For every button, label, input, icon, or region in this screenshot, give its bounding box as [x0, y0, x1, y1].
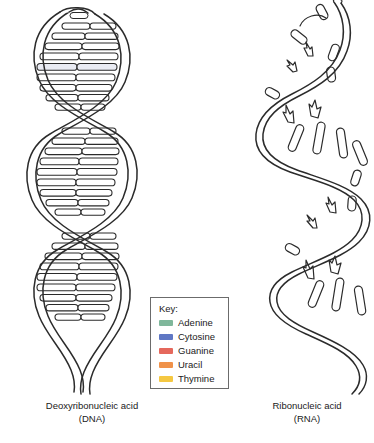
uracil-color-swatch — [159, 362, 173, 368]
rna-bases — [264, 3, 369, 315]
adenine-label: Adenine — [178, 317, 213, 329]
adenine-color-swatch — [159, 320, 173, 326]
legend-item-uracil: Uracil — [159, 358, 228, 372]
dna-caption-line2: (DNA) — [0, 413, 184, 426]
cytosine-label: Cytosine — [178, 331, 215, 343]
dna-caption: Deoxyribonucleic acid (DNA) — [0, 400, 184, 425]
rna-strand — [256, 0, 370, 394]
rna-backbone — [256, 2, 370, 394]
legend-item-cytosine: Cytosine — [159, 330, 228, 344]
figure-canvas: Key: Adenine Cytosine Guanine Uracil Thy… — [0, 0, 374, 443]
legend-box: Key: Adenine Cytosine Guanine Uracil Thy… — [150, 297, 229, 389]
thymine-label: Thymine — [178, 373, 214, 385]
cytosine-color-swatch — [159, 334, 173, 340]
dna-base-pair-rungs — [37, 23, 119, 320]
thymine-color-swatch — [159, 376, 173, 382]
uracil-label: Uracil — [178, 359, 202, 371]
rna-caption: Ribonucleic acid (RNA) — [240, 400, 374, 425]
dna-rung-group-3 — [37, 233, 119, 320]
legend-item-guanine: Guanine — [159, 344, 228, 358]
rna-caption-line2: (RNA) — [240, 413, 374, 426]
legend-item-thymine: Thymine — [159, 372, 228, 386]
guanine-label: Guanine — [178, 345, 214, 357]
legend-title: Key: — [159, 303, 228, 314]
dna-top-cap — [60, 8, 95, 19]
guanine-color-swatch — [159, 348, 173, 354]
legend-item-adenine: Adenine — [159, 316, 228, 330]
dna-caption-line1: Deoxyribonucleic acid — [46, 400, 138, 411]
dna-helix — [27, 8, 137, 394]
rna-caption-line1: Ribonucleic acid — [272, 400, 341, 411]
